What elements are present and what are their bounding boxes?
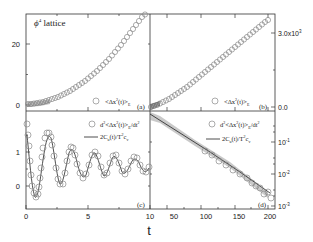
legend-c: d2<Δx2(t)>E/dt2 2Cu(t)/T2cv: [84, 120, 140, 142]
x-axis-label: t: [147, 223, 151, 238]
axes-frames: [26, 14, 275, 209]
figure: ϕ4 lattice (a) (b) (c) (d) 0 20 0 1 0.0 …: [0, 0, 313, 242]
ytick-d-1e-2: 10-2: [278, 170, 290, 178]
xtick-10: 10: [146, 212, 154, 221]
ytick-d-1e-3: 10-3: [278, 202, 290, 210]
legend-d-label-1: d2<Δx2(t)>E/dt2: [220, 120, 260, 130]
xtick-5: 5: [86, 212, 90, 221]
ytick-c-1: 1: [16, 148, 20, 157]
legend-circle-marker-icon: [93, 98, 99, 104]
xtick-100: 100: [200, 212, 213, 221]
panel-label-c: (c): [137, 201, 145, 209]
legend-d: d2<Δx2(t)>E/dt2 2Cu(t)/T2cv: [206, 120, 260, 144]
ytick-b-3000: 3.0x103: [278, 29, 302, 37]
legend-c-label-2: 2Cu(t)/T2cv: [100, 132, 128, 142]
ytick-c-0: 0: [16, 182, 20, 191]
xtick-50: 50: [170, 212, 178, 221]
ytick-b-0: 0.0: [278, 104, 288, 111]
panel-label-a: (a): [137, 103, 145, 111]
xtick-0: 0: [24, 212, 28, 221]
legend-c-label-1: d2<Δx2(t)>E/dt2: [100, 120, 140, 130]
ytick-a-20: 20: [12, 40, 20, 49]
legend-circle-marker-icon: [212, 98, 218, 104]
legend-b: <Δx2(t)>E: [212, 97, 250, 107]
ytick-a-0: 0: [16, 101, 20, 110]
legend-circle-marker-icon: [209, 121, 215, 127]
legend-a: <Δx2(t)>E: [93, 97, 131, 107]
panel-label-b: (b): [259, 103, 268, 111]
tick-marks: [26, 14, 275, 209]
panel-b-series: [148, 17, 270, 109]
legend-b-label: <Δx2(t)>E: [224, 97, 250, 107]
panel-c-line: [27, 135, 149, 197]
panel-label-d: (d): [258, 201, 267, 209]
legend-d-label-2: 2Cu(t)/T2cv: [222, 134, 250, 144]
xtick-200: 200: [264, 212, 277, 221]
ytick-d-1e-1: 10-1: [278, 138, 290, 146]
legend-a-label: <Δx2(t)>E: [105, 97, 131, 107]
figure-title: ϕ4 lattice: [34, 18, 65, 28]
xtick-150: 150: [233, 212, 246, 221]
legend-circle-marker-icon: [89, 121, 95, 127]
